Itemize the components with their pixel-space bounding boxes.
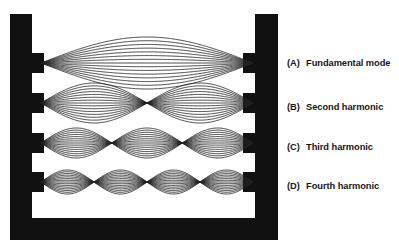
left-post xyxy=(10,14,32,240)
mode-name-c: Third harmonic xyxy=(306,142,373,153)
mode-label-c: (C)Third harmonic xyxy=(287,142,399,153)
wave-envelope-curve xyxy=(41,63,253,82)
bottom-bar xyxy=(10,218,278,240)
mode-name-d: Fourth harmonic xyxy=(306,181,379,192)
mode-tag-b: (B) xyxy=(287,102,306,113)
mode-tag-a: (A) xyxy=(287,58,306,69)
mode-labels-list: (A)Fundamental mode (B)Second harmonic (… xyxy=(287,0,399,245)
standing-waves-figure: (A)Fundamental mode (B)Second harmonic (… xyxy=(0,0,399,245)
mode-name-b: Second harmonic xyxy=(306,102,383,113)
mode-tag-c: (C) xyxy=(287,142,306,153)
wave-envelope-curve xyxy=(41,44,253,63)
standing-wave-3 xyxy=(41,128,253,158)
standing-wave-1 xyxy=(41,37,253,89)
mode-name-a: Fundamental mode xyxy=(306,58,390,69)
standing-wave-4 xyxy=(41,170,253,194)
waves-group xyxy=(41,37,253,194)
mode-label-d: (D)Fourth harmonic xyxy=(287,181,399,192)
right-post xyxy=(255,14,278,240)
mode-label-b: (B)Second harmonic xyxy=(287,102,399,113)
mode-tag-d: (D) xyxy=(287,181,306,192)
mode-label-a: (A)Fundamental mode xyxy=(287,58,399,69)
